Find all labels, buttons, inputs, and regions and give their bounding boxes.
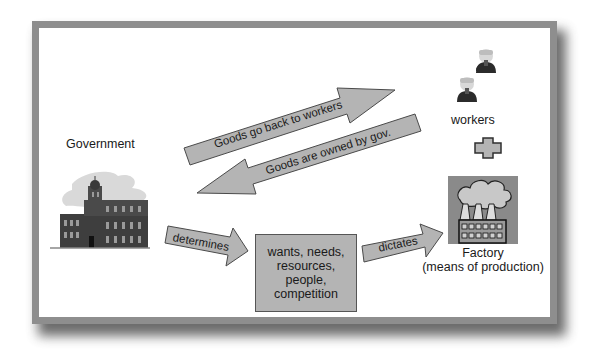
factory-label: Factory (means of production): [418, 246, 548, 274]
workers-label: workers: [451, 113, 495, 127]
factor-wants-needs: wants, needs,: [267, 245, 344, 259]
factory-subtitle: (means of production): [418, 260, 548, 274]
government-label: Government: [66, 137, 135, 151]
factors-box: wants, needs, resources, people, competi…: [255, 234, 357, 312]
worker-person-icon: [476, 49, 496, 73]
factor-competition: competition: [267, 287, 344, 301]
factor-people: people,: [267, 273, 344, 287]
factor-resources: resources,: [267, 259, 344, 273]
worker-person-icon: [457, 77, 477, 102]
plus-icon: [475, 138, 501, 158]
government-building-icon: [50, 172, 150, 248]
factory-title: Factory: [418, 246, 548, 260]
factory-icon: [448, 176, 518, 244]
